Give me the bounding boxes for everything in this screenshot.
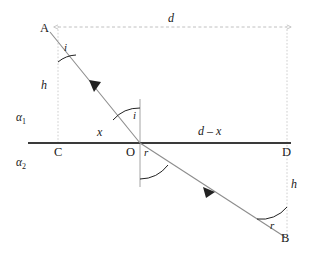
medium-lower-subscript: 2 <box>22 162 26 171</box>
length-label-x: x <box>97 126 102 138</box>
medium-label-lower: α2 <box>16 157 26 171</box>
refraction-diagram: A B C D O α1 α2 d h h x d – x i i r r <box>0 0 318 255</box>
length-label-h-upper: h <box>41 79 47 91</box>
refracted-ray-arrowhead <box>203 187 215 198</box>
point-label-C: C <box>54 146 62 159</box>
angle-label-r-at-O: r <box>144 147 148 158</box>
angle-arc-refracted-at-O <box>140 165 168 179</box>
medium-upper-subscript: 1 <box>22 117 26 126</box>
length-label-d: d <box>168 12 174 24</box>
diagram-canvas <box>0 0 318 255</box>
angle-label-r-at-B: r <box>270 220 274 231</box>
medium-label-upper: α1 <box>16 112 26 126</box>
angle-arc-refracted-at-B <box>257 207 287 219</box>
refracted-ray <box>140 143 285 237</box>
point-label-A: A <box>40 22 49 35</box>
point-label-D: D <box>282 146 291 159</box>
length-label-d-minus-x: d – x <box>198 125 221 137</box>
point-label-O: O <box>126 146 135 159</box>
angle-label-i-at-O: i <box>133 110 136 121</box>
angle-label-i-at-A: i <box>64 42 67 53</box>
length-label-h-lower: h <box>291 178 297 190</box>
incident-ray-arrowhead <box>89 80 101 92</box>
point-label-B: B <box>281 232 289 245</box>
